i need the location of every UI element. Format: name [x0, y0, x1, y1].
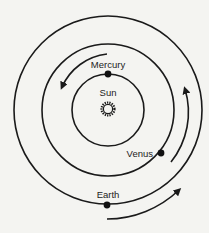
earth-dot [104, 202, 111, 209]
sun-icon [102, 103, 115, 116]
orbit-mercury [72, 74, 144, 146]
mercury-label: Mercury [91, 59, 126, 70]
solar-system-diagram: Sun Mercury Venus Earth [0, 0, 209, 233]
venus-dot [158, 150, 165, 157]
venus-label: Venus [127, 148, 154, 159]
sun-label: Sun [100, 87, 117, 98]
mercury-dot [105, 71, 112, 78]
earth-label: Earth [97, 189, 120, 200]
